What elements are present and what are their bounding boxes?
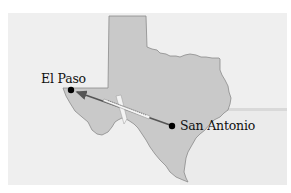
el-paso-dot[interactable] xyxy=(68,87,74,93)
texas-map xyxy=(0,0,291,193)
san-antonio-dot[interactable] xyxy=(169,123,175,129)
louisiana-border-band xyxy=(222,108,287,111)
san-antonio-label: San Antonio xyxy=(180,118,255,133)
el-paso-label: El Paso xyxy=(41,71,86,86)
